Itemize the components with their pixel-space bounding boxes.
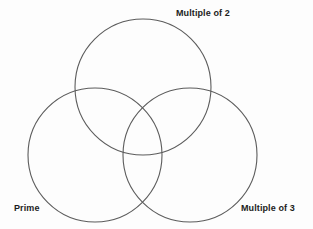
venn-circle-multiple-of-2 bbox=[75, 19, 211, 155]
venn-diagram-container: Multiple of 2 Prime Multiple of 3 bbox=[0, 0, 313, 229]
venn-label-multiple-of-2: Multiple of 2 bbox=[176, 9, 230, 18]
venn-label-multiple-of-3: Multiple of 3 bbox=[241, 204, 295, 213]
venn-diagram-canvas bbox=[0, 0, 313, 229]
venn-label-prime: Prime bbox=[14, 204, 40, 213]
